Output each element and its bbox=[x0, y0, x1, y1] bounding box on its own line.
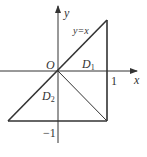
tick-x-one: 1 bbox=[111, 75, 117, 87]
diagram-canvas bbox=[0, 0, 147, 157]
region-d1-sub: 1 bbox=[91, 63, 95, 72]
region-d1-label: D1 bbox=[82, 58, 95, 72]
region-d2-sub: 2 bbox=[51, 95, 55, 104]
line-y-equals-neg-x bbox=[58, 71, 107, 121]
y-axis-label: y bbox=[64, 7, 69, 19]
region-d2-name: D bbox=[42, 89, 51, 103]
x-axis-label: x bbox=[134, 74, 139, 86]
region-d1-name: D bbox=[82, 57, 91, 71]
line-label: y=x bbox=[73, 26, 89, 36]
region-d2-label: D2 bbox=[42, 90, 55, 104]
origin-label: O bbox=[46, 59, 55, 71]
tick-y-neg-one: −1 bbox=[43, 127, 56, 139]
